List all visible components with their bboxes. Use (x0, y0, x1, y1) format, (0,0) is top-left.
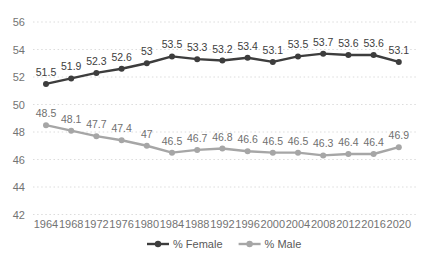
data-point-male (194, 147, 200, 153)
line-chart-figure: 4244464850525456196419681972197619801984… (0, 0, 422, 263)
data-point-female (119, 66, 125, 72)
data-point-female (320, 51, 326, 57)
x-tick-label: 2008 (311, 218, 335, 230)
data-label-female: 53.3 (187, 41, 208, 53)
y-tick-label: 54 (13, 44, 25, 56)
legend-label-male: % Male (265, 238, 302, 250)
data-label-male: 46.7 (187, 132, 208, 144)
data-point-female (371, 52, 377, 58)
data-point-female (219, 58, 225, 64)
data-point-female (345, 52, 351, 58)
data-label-male: 47 (141, 128, 153, 140)
data-label-female: 51.9 (61, 60, 82, 72)
data-point-female (295, 53, 301, 59)
legend-item-male: % Male (239, 238, 302, 250)
data-label-male: 46.5 (162, 135, 183, 147)
data-label-female: 53.6 (363, 37, 384, 49)
data-point-female (144, 60, 150, 66)
legend-swatch-marker-male (246, 241, 252, 247)
y-tick-label: 50 (13, 99, 25, 111)
data-point-female (270, 59, 276, 65)
x-tick-label: 1980 (135, 218, 159, 230)
data-point-male (68, 128, 74, 134)
data-label-male: 46.5 (263, 135, 284, 147)
data-label-female: 53.1 (389, 44, 410, 56)
data-point-male (396, 144, 402, 150)
legend-item-female: % Female (147, 238, 223, 250)
data-label-male: 46.4 (363, 136, 384, 148)
legend: % Female% Male (147, 238, 301, 250)
data-point-male (43, 122, 49, 128)
data-label-female: 52.6 (111, 51, 132, 63)
data-label-female: 53.7 (313, 36, 334, 48)
data-label-male: 47.7 (86, 118, 107, 130)
data-label-female: 52.3 (86, 55, 107, 67)
data-point-female (93, 70, 99, 76)
y-tick-label: 56 (13, 16, 25, 28)
x-tick-label: 1988 (185, 218, 209, 230)
data-label-female: 53.5 (288, 38, 309, 50)
data-point-female (194, 56, 200, 62)
data-point-female (169, 53, 175, 59)
data-point-male (119, 137, 125, 143)
data-label-female: 51.5 (36, 66, 57, 78)
x-tick-label: 2000 (261, 218, 285, 230)
x-tick-label: 1968 (59, 218, 83, 230)
y-tick-label: 44 (13, 181, 25, 193)
data-point-male (169, 150, 175, 156)
data-label-male: 46.8 (212, 131, 233, 143)
x-tick-label: 1976 (109, 218, 133, 230)
data-point-female (68, 75, 74, 81)
data-label-male: 48.1 (61, 113, 82, 125)
data-point-female (396, 59, 402, 65)
data-label-female: 53.4 (237, 40, 258, 52)
data-label-female: 53.2 (212, 43, 233, 55)
x-tick-label: 1984 (160, 218, 184, 230)
x-tick-label: 2016 (361, 218, 385, 230)
data-point-female (43, 81, 49, 87)
x-tick-label: 1992 (210, 218, 234, 230)
y-tick-label: 46 (13, 154, 25, 166)
y-tick-label: 52 (13, 71, 25, 83)
data-point-male (144, 143, 150, 149)
data-label-male: 46.6 (237, 133, 258, 145)
data-point-male (295, 150, 301, 156)
data-label-female: 53.6 (338, 37, 359, 49)
data-point-male (219, 146, 225, 152)
data-label-male: 46.5 (288, 135, 309, 147)
data-point-male (270, 150, 276, 156)
x-tick-label: 2020 (387, 218, 411, 230)
data-label-female: 53 (141, 45, 153, 57)
data-label-male: 47.4 (111, 122, 132, 134)
data-point-male (245, 148, 251, 154)
data-point-male (320, 152, 326, 158)
data-label-female: 53.5 (162, 38, 183, 50)
data-label-male: 46.4 (338, 136, 359, 148)
y-tick-label: 48 (13, 126, 25, 138)
data-label-female: 53.1 (263, 44, 284, 56)
x-tick-label: 2004 (286, 218, 310, 230)
data-point-male (371, 151, 377, 157)
line-chart: 4244464850525456196419681972197619801984… (0, 0, 422, 263)
legend-swatch-marker-female (155, 241, 161, 247)
data-label-male: 48.5 (36, 107, 57, 119)
x-tick-label: 1964 (34, 218, 58, 230)
data-point-female (245, 55, 251, 61)
x-tick-label: 1996 (235, 218, 259, 230)
y-tick-label: 42 (13, 209, 25, 221)
data-label-male: 46.9 (389, 129, 410, 141)
legend-label-female: % Female (173, 238, 223, 250)
data-label-male: 46.3 (313, 137, 334, 149)
x-tick-label: 1972 (84, 218, 108, 230)
x-tick-label: 2012 (336, 218, 360, 230)
data-point-male (345, 151, 351, 157)
data-point-male (93, 133, 99, 139)
